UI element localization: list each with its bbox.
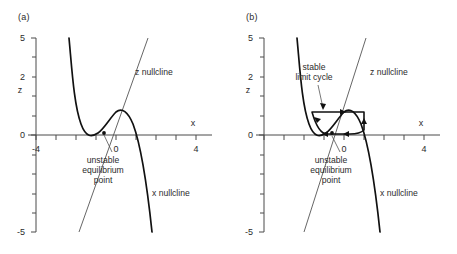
x-axis-label: x bbox=[191, 118, 196, 128]
panel-b: (b) bbox=[228, 0, 456, 254]
stable-limit-cycle-leader-arrow bbox=[320, 103, 326, 110]
panel-a: (a) bbox=[0, 0, 228, 254]
x-tick-label-0: 0 bbox=[113, 144, 118, 154]
x-tick-label-0: 0 bbox=[341, 144, 346, 154]
z-tick-label-5: 5 bbox=[248, 33, 253, 43]
panel-b-plot: 5 2 0 -5 0 4 z x bbox=[228, 0, 457, 254]
x-nullcline-label: x nullcline bbox=[152, 188, 190, 198]
x-tick-label-4: 4 bbox=[193, 144, 198, 154]
limit-cycle-arrow-right bbox=[361, 118, 367, 124]
stable-limit-cycle-label-line1: stable bbox=[303, 62, 326, 72]
z-nullcline-label: z nullcline bbox=[135, 67, 173, 77]
z-axis-ticks bbox=[31, 38, 36, 232]
z-tick-label-minus5: -5 bbox=[245, 227, 253, 237]
unstable-equilibrium-point-marker bbox=[330, 131, 334, 135]
z-tick-label-2: 2 bbox=[248, 72, 253, 82]
unstable-equilibrium-label-line2: equilibrium bbox=[82, 165, 124, 175]
z-axis-label: z bbox=[18, 85, 23, 95]
z-tick-label-2: 2 bbox=[20, 72, 25, 82]
unstable-equilibrium-label-line1: unstable bbox=[315, 155, 348, 165]
z-axis-ticks bbox=[259, 38, 264, 232]
x-axis-ticks bbox=[264, 135, 424, 140]
panel-a-plot: 5 2 0 -5 -4 0 4 z x unstable equilibrium… bbox=[0, 0, 228, 254]
unstable-equilibrium-label-line1: unstable bbox=[87, 155, 120, 165]
x-axis-ticks bbox=[36, 135, 196, 140]
figure-phase-plane-nullclines: (a) bbox=[0, 0, 457, 254]
x-nullcline-label: x nullcline bbox=[380, 188, 418, 198]
z-tick-label-minus5: -5 bbox=[17, 227, 25, 237]
unstable-equilibrium-point-marker bbox=[102, 131, 106, 135]
x-tick-label-4: 4 bbox=[421, 144, 426, 154]
z-tick-label-0: 0 bbox=[248, 130, 253, 140]
z-axis-label: z bbox=[246, 85, 251, 95]
unstable-equilibrium-label-line2: equilibrium bbox=[310, 165, 352, 175]
unstable-equilibrium-label-line3: point bbox=[94, 175, 113, 185]
unstable-equilibrium-leader-line bbox=[332, 136, 340, 152]
z-tick-label-5: 5 bbox=[20, 33, 25, 43]
unstable-equilibrium-label-line3: point bbox=[322, 175, 341, 185]
x-tick-label-minus4: -4 bbox=[32, 144, 40, 154]
x-axis-label: x bbox=[419, 118, 424, 128]
z-tick-label-0: 0 bbox=[20, 130, 25, 140]
stable-limit-cycle-label-line2: limit cycle bbox=[295, 72, 332, 82]
z-nullcline-label: z nullcline bbox=[370, 67, 408, 77]
